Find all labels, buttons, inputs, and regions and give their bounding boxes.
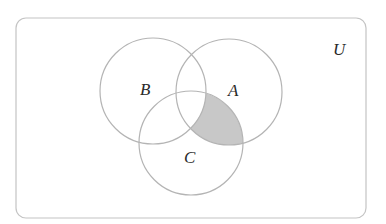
- venn-diagram: B A C U: [0, 0, 386, 224]
- label-a: A: [227, 81, 239, 100]
- label-b: B: [140, 80, 151, 99]
- label-c: C: [184, 148, 196, 167]
- label-universe: U: [333, 40, 347, 59]
